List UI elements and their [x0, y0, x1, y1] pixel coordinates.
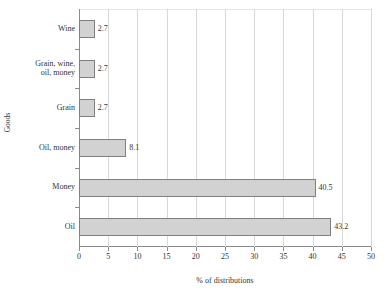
- gridline: [79, 9, 80, 247]
- bar-value-label: 43.2: [334, 222, 348, 231]
- bar-value-label: 2.7: [98, 103, 108, 112]
- gridline: [225, 9, 226, 247]
- x-tick-label: 30: [242, 252, 266, 261]
- bar: [79, 139, 126, 157]
- x-tick-mark: [254, 247, 255, 251]
- bar: [79, 99, 95, 117]
- x-tick-label: 50: [359, 252, 383, 261]
- y-tick-mark: [75, 207, 79, 208]
- category-label: Grain: [1, 103, 75, 113]
- category-label: Money: [1, 182, 75, 192]
- bar-value-label: 2.7: [98, 64, 108, 73]
- category-label: Oil: [1, 222, 75, 232]
- x-tick-mark: [371, 247, 372, 251]
- category-label: Grain, wine, oil, money: [1, 59, 75, 78]
- y-tick-mark: [75, 128, 79, 129]
- x-tick-label: 40: [301, 252, 325, 261]
- bar-value-label: 8.1: [129, 143, 139, 152]
- gridline: [137, 9, 138, 247]
- x-tick-mark: [283, 247, 284, 251]
- x-tick-label: 10: [125, 252, 149, 261]
- x-tick-label: 15: [155, 252, 179, 261]
- bar: [79, 218, 331, 236]
- x-tick-mark: [79, 247, 80, 251]
- x-tick-label: 25: [213, 252, 237, 261]
- bar: [79, 179, 316, 197]
- gridline: [371, 9, 372, 247]
- y-tick-mark: [75, 88, 79, 89]
- y-tick-mark: [75, 168, 79, 169]
- category-label: Oil, money: [1, 143, 75, 153]
- gridline: [342, 9, 343, 247]
- x-tick-label: 35: [271, 252, 295, 261]
- x-tick-mark: [225, 247, 226, 251]
- x-tick-mark: [108, 247, 109, 251]
- gridline: [254, 9, 255, 247]
- bar-chart: Goods 05101520253035404550 43.2Oil40.5Mo…: [0, 0, 390, 298]
- bar-value-label: 2.7: [98, 24, 108, 33]
- x-tick-label: 5: [96, 252, 120, 261]
- x-axis-title: % of distributions: [79, 276, 371, 285]
- chart-title: [80, 0, 360, 2]
- x-tick-mark: [167, 247, 168, 251]
- gridline: [167, 9, 168, 247]
- x-tick-label: 20: [184, 252, 208, 261]
- category-label: Wine: [1, 24, 75, 34]
- x-tick-mark: [196, 247, 197, 251]
- bar: [79, 60, 95, 78]
- x-tick-mark: [342, 247, 343, 251]
- x-tick-mark: [137, 247, 138, 251]
- x-tick-label: 45: [330, 252, 354, 261]
- bar: [79, 20, 95, 38]
- gridline: [313, 9, 314, 247]
- bar-value-label: 40.5: [319, 183, 333, 192]
- gridline: [283, 9, 284, 247]
- gridline: [196, 9, 197, 247]
- gridline: [108, 9, 109, 247]
- x-tick-mark: [313, 247, 314, 251]
- y-tick-mark: [75, 49, 79, 50]
- x-tick-label: 0: [67, 252, 91, 261]
